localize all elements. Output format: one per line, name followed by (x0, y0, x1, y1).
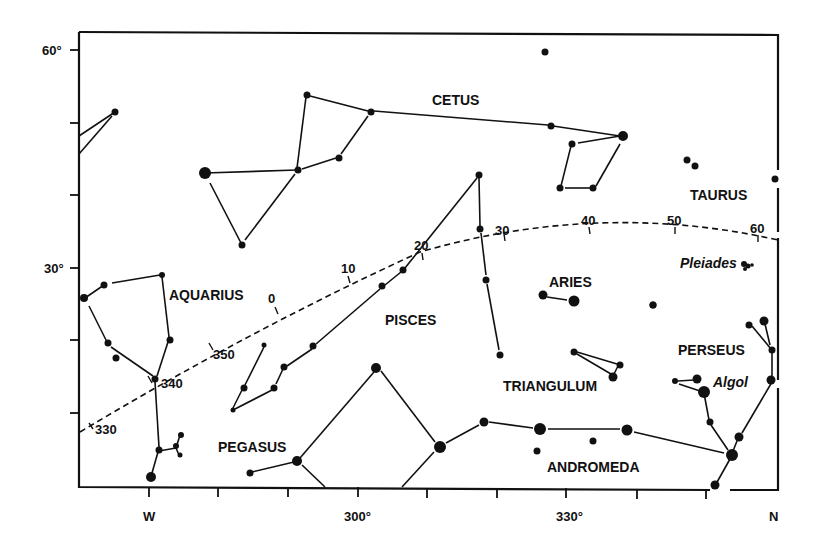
label-perseus: PERSEUS (678, 342, 745, 358)
constellation-andromeda (446, 418, 724, 455)
x-label-n: N (769, 509, 778, 524)
label-pleiades: Pleiades (680, 255, 737, 271)
label-cetus: CETUS (432, 92, 479, 108)
ecliptic-mark-10: 10 (341, 261, 355, 276)
ecliptic-mark-330: 330 (95, 422, 117, 437)
y-label-60: 60° (42, 43, 62, 58)
x-label-300: 300° (344, 509, 371, 524)
y-label-30: 30° (44, 261, 64, 276)
pleiades-cluster-icon (741, 261, 754, 271)
constellation-cetus (199, 49, 628, 249)
ecliptic-mark-340: 340 (161, 376, 183, 391)
constellation-triangulum (571, 349, 624, 382)
ecliptic-mark-30: 30 (495, 223, 509, 238)
fragment-top-left (79, 109, 119, 155)
star-chart: 60° 30° W 300° 330° N 330 340 350 0 10 2… (0, 0, 816, 552)
label-pegasus: PEGASUS (218, 439, 286, 455)
ecliptic-mark-350: 350 (213, 347, 235, 362)
label-aries: ARIES (549, 274, 592, 290)
ecliptic-mark-0: 0 (268, 291, 275, 306)
x-label-330: 330° (556, 509, 583, 524)
ecliptic-mark-50: 50 (667, 213, 681, 228)
label-algol: Algol (712, 374, 749, 390)
ecliptic-mark-40: 40 (581, 213, 595, 228)
label-pisces: PISCES (385, 312, 436, 328)
label-triangulum: TRIANGULUM (503, 378, 597, 394)
ecliptic-mark-60: 60 (750, 221, 764, 236)
x-label-w: W (143, 509, 156, 524)
constellation-perseus (650, 302, 776, 490)
y-axis-ticks (70, 50, 79, 413)
label-taurus: TAURUS (690, 187, 747, 203)
label-andromeda: ANDROMEDA (547, 459, 640, 475)
label-aquarius: AQUARIUS (169, 287, 244, 303)
constellation-taurus (684, 157, 779, 183)
chart-frame (79, 32, 778, 490)
constellation-aries (539, 291, 657, 309)
